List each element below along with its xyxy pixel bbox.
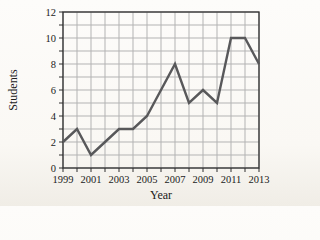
y-tick-label: 8 — [51, 59, 56, 70]
y-tick-label: 0 — [51, 163, 56, 174]
x-tick-label: 2013 — [249, 174, 270, 185]
line-chart: 1999200120032005200720092011201302468101… — [0, 0, 271, 206]
y-tick-label: 4 — [51, 111, 57, 122]
x-tick-label: 2001 — [81, 174, 102, 185]
y-tick-label: 2 — [51, 137, 56, 148]
y-tick-label: 6 — [51, 85, 56, 96]
x-tick-label: 2005 — [137, 174, 158, 185]
x-tick-label: 2009 — [193, 174, 214, 185]
x-tick-label: 2003 — [109, 174, 130, 185]
x-tick-label: 2007 — [165, 174, 186, 185]
x-tick-label: 2011 — [221, 174, 242, 185]
y-axis-title: Students — [6, 69, 21, 110]
x-axis-title: Year — [63, 188, 259, 203]
y-tick-label: 12 — [46, 7, 57, 18]
student-line-chart-figure: 1999200120032005200720092011201302468101… — [0, 0, 271, 206]
x-tick-label: 1999 — [53, 174, 74, 185]
y-tick-label: 10 — [46, 33, 57, 44]
